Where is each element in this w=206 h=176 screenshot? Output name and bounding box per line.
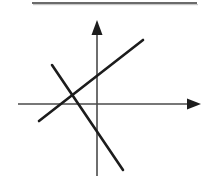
- top-rule-shadow: [33, 4, 198, 5]
- y-axis-arrowhead-icon: [92, 20, 103, 35]
- x-axis: [18, 99, 201, 110]
- y-axis: [92, 20, 103, 176]
- figure-container: Coordinate plane with two intersecting s…: [0, 0, 206, 176]
- x-axis-arrowhead-icon: [187, 99, 201, 110]
- coordinate-plane-figure: Coordinate plane with two intersecting s…: [0, 0, 206, 176]
- rising-line: [39, 40, 143, 121]
- top-rule: [32, 2, 198, 5]
- falling-line: [52, 65, 123, 170]
- top-rule-bar: [32, 2, 197, 4]
